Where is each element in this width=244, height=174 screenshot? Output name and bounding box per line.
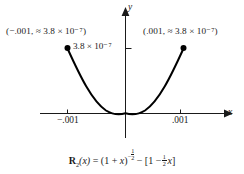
y-axis-label: y xyxy=(128,3,132,13)
formula-minus: − xyxy=(137,155,143,166)
caption-formula: R2(x) = (1 + x)−12 − [1 −12x] xyxy=(0,147,244,168)
right-point-annotation: (.001, ≈ 3.8 × 10⁻⁷) xyxy=(143,27,218,36)
formula-exponent-fraction: 12 xyxy=(131,148,134,162)
endpoint-dot-left xyxy=(65,45,71,51)
formula-term1-base: (1 + x) xyxy=(101,155,128,166)
x-tick-label-positive: .001 xyxy=(172,116,188,125)
formula-bracket-open: [1 − xyxy=(145,155,161,166)
endpoint-dot-right xyxy=(181,45,187,51)
figure-canvas: (−.001, ≈ 3.8 × 10⁻⁷) (.001, ≈ 3.8 × 10⁻… xyxy=(0,0,244,174)
formula-half-fraction: 12 xyxy=(162,154,167,168)
formula-half-denominator: 2 xyxy=(162,160,167,167)
formula-bracket-close: ] xyxy=(172,155,175,166)
formula-function-name: R xyxy=(69,155,76,166)
y-tick-label: 3.8 × 10⁻⁷ xyxy=(73,42,112,51)
formula-argument: (x) xyxy=(79,155,90,166)
formula-equals: = xyxy=(93,155,99,166)
formula-exponent-numerator: 1 xyxy=(131,148,134,154)
x-tick-label-negative: −.001 xyxy=(57,116,79,125)
x-axis-label: x xyxy=(228,108,232,118)
left-point-annotation: (−.001, ≈ 3.8 × 10⁻⁷) xyxy=(6,27,86,36)
formula-exponent-denominator: 2 xyxy=(131,154,134,161)
